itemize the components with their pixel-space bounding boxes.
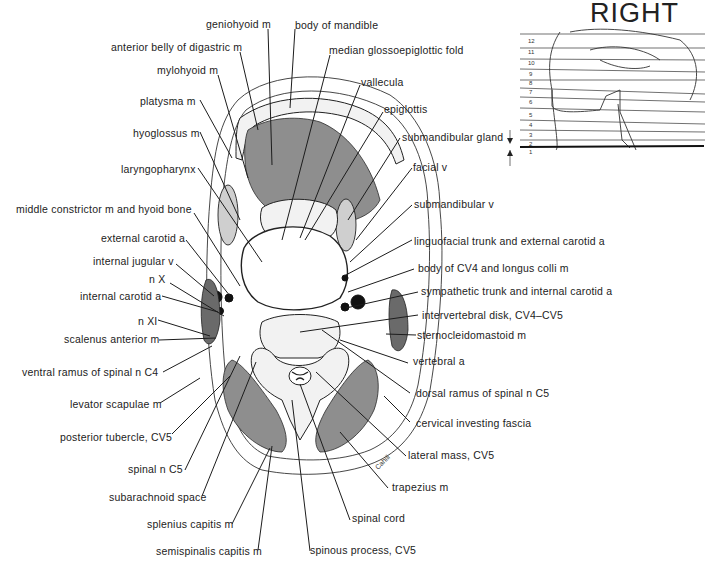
- label-mylohyoid: mylohyoid m: [157, 64, 218, 76]
- section-number: 10: [528, 60, 535, 66]
- section-number: 11: [528, 49, 534, 55]
- label-levator-scapulae: levator scapulae m: [70, 398, 162, 410]
- label-internal-jugular: internal jugular v: [93, 255, 174, 267]
- label-laryngopharynx: laryngopharynx: [121, 163, 196, 175]
- section-number: 12: [528, 38, 535, 44]
- section-number: 2: [529, 141, 532, 147]
- sternocleidomastoid-right: [389, 290, 408, 351]
- label-n-x: n X: [149, 273, 165, 285]
- label-lateral-mass: lateral mass, CV5: [408, 449, 494, 461]
- label-external-carotid: external carotid a: [101, 232, 185, 244]
- label-cervical-investing-fascia: cervical investing fascia: [416, 417, 531, 429]
- label-n-xi: n XI: [138, 315, 157, 327]
- laryngopharynx-lumen: [241, 227, 347, 310]
- section-number: 3: [529, 132, 532, 138]
- label-spinal-n-c5: spinal n C5: [128, 463, 183, 475]
- section-number: 6: [529, 99, 532, 105]
- reference-inset: [507, 29, 705, 166]
- label-median-glossoepiglottic: median glossoepiglottic fold: [329, 44, 464, 56]
- label-trapezius: trapezius m: [392, 481, 448, 493]
- label-body-cv4: body of CV4 and longus colli m: [418, 262, 569, 274]
- label-posterior-tubercle: posterior tubercle, CV5: [60, 431, 172, 443]
- label-body-of-mandible: body of mandible: [295, 19, 378, 31]
- label-facial-v: facial v: [413, 161, 447, 173]
- section-number: 4: [529, 122, 532, 128]
- label-submandibular-gland: submandibular gland: [402, 131, 503, 143]
- section-number: 1: [529, 149, 532, 155]
- label-spinous-process: spinous process, CV5: [310, 544, 416, 556]
- label-anterior-belly-digastric: anterior belly of digastric m: [111, 41, 242, 53]
- label-splenius-capitis: splenius capitis m: [147, 518, 233, 530]
- label-sympathetic-trunk: sympathetic trunk and internal carotid a: [421, 285, 612, 297]
- label-sternocleidomastoid: sternocleidomastoid m: [417, 329, 526, 341]
- internal-carotid-right: [341, 303, 349, 311]
- signature: Cahill: [374, 453, 392, 471]
- label-vertebral-a: vertebral a: [413, 355, 465, 367]
- spinal-cord-shape: [289, 367, 311, 385]
- label-geniohyoid: geniohyoid m: [206, 18, 271, 30]
- section-number: 9: [529, 71, 532, 77]
- submandibular-gland-right: [336, 199, 356, 251]
- label-epiglottis: epiglottis: [384, 103, 427, 115]
- anatomy-figure: RIGHT: [0, 0, 706, 573]
- label-scalenus-anterior: scalenus anterior m: [64, 333, 159, 345]
- label-semispinalis-capitis: semispinalis capitis m: [156, 545, 262, 557]
- label-spinal-cord: spinal cord: [352, 512, 405, 524]
- label-subarachnoid-space: subarachnoid space: [109, 491, 207, 503]
- label-middle-constrictor: middle constrictor m and hyoid bone: [16, 203, 192, 215]
- label-vallecula: vallecula: [361, 76, 404, 88]
- label-platysma: platysma m: [140, 95, 196, 107]
- label-dorsal-ramus-c5: dorsal ramus of spinal n C5: [416, 387, 549, 399]
- section-number: 5: [529, 112, 532, 118]
- label-hyoglossus: hyoglossus m: [133, 127, 200, 139]
- label-ventral-ramus-c4: ventral ramus of spinal n C4: [22, 366, 158, 378]
- section-number: 7: [529, 89, 532, 95]
- label-linguofacial-trunk: linguofacial trunk and external carotid …: [414, 235, 605, 247]
- label-submandibular-v: submandibular v: [414, 198, 494, 210]
- section-number: 8: [529, 80, 532, 86]
- label-internal-carotid: internal carotid a: [80, 290, 161, 302]
- label-intervertebral-disk: intervertebral disk, CV4–CV5: [422, 309, 563, 321]
